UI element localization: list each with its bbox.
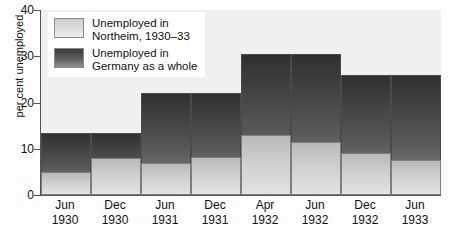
bar-northeim [241,135,291,195]
bar-northeim [391,160,441,195]
x-tick-label: Dec1930 [90,198,140,228]
bar-northeim [191,157,241,195]
legend-swatch-light [54,18,84,38]
bar-group [341,10,391,195]
legend-label: Unemployed inNortheim, 1930–33 [92,17,190,42]
legend-swatch-dark [54,48,84,68]
chart-container: per cent unemployed 40 30 20 10 0 Jun193… [0,0,465,238]
x-axis: Jun1930Dec1930Jun1931Dec1931Apr1932Jun19… [40,198,440,238]
legend-item: Unemployed inGermany as a whole [54,47,197,72]
x-tick-label: Dec1932 [340,198,390,228]
x-tick-month: Jun [390,198,440,213]
bar-northeim [41,172,91,195]
x-tick-year: 1931 [140,213,190,228]
x-tick-label: Jun1931 [140,198,190,228]
x-tick-year: 1932 [240,213,290,228]
chart-legend: Unemployed inNortheim, 1930–33Unemployed… [48,12,205,77]
x-tick-year: 1932 [290,213,340,228]
x-tick-year: 1932 [340,213,390,228]
x-tick-label: Jun1933 [390,198,440,228]
x-tick-month: Dec [90,198,140,213]
bar-northeim [341,153,391,195]
bar-group [241,10,291,195]
x-tick-label: Jun1930 [40,198,90,228]
bar-northeim [91,158,141,195]
bar-group [291,10,341,195]
x-tick-label: Dec1931 [190,198,240,228]
x-tick-year: 1931 [190,213,240,228]
x-tick-month: Apr [240,198,290,213]
x-tick-month: Dec [340,198,390,213]
bar-group [391,10,441,195]
bar-northeim [291,142,341,195]
x-tick-month: Dec [190,198,240,213]
x-tick-label: Apr1932 [240,198,290,228]
bar-northeim [141,163,191,195]
x-tick-month: Jun [290,198,340,213]
x-tick-label: Jun1932 [290,198,340,228]
x-tick-month: Jun [40,198,90,213]
y-axis-ticks: 40 30 20 10 0 [0,0,40,238]
legend-label: Unemployed inGermany as a whole [92,47,197,72]
x-tick-year: 1930 [40,213,90,228]
x-tick-year: 1933 [390,213,440,228]
x-tick-year: 1930 [90,213,140,228]
x-tick-month: Jun [140,198,190,213]
legend-item: Unemployed inNortheim, 1930–33 [54,17,197,42]
